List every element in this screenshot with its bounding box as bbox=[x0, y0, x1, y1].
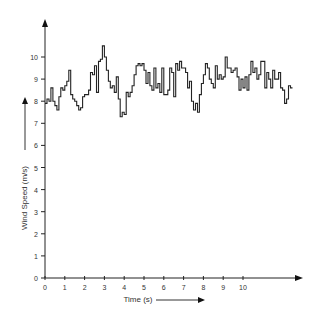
y-tick-label: 6 bbox=[34, 142, 38, 149]
x-tick-label: 7 bbox=[182, 284, 186, 291]
y-tick-label: 7 bbox=[34, 120, 38, 127]
x-tick-label: 10 bbox=[239, 284, 247, 291]
x-tick-label: 8 bbox=[201, 284, 205, 291]
x-tick-label: 0 bbox=[43, 284, 47, 291]
y-tick-label: 1 bbox=[34, 253, 38, 260]
y-tick-label: 3 bbox=[34, 209, 38, 216]
y-tick-label: 0 bbox=[34, 275, 38, 282]
wind-speed-series-line bbox=[45, 46, 293, 117]
x-axis-label: Time (s) bbox=[123, 295, 152, 304]
x-tick-label: 9 bbox=[221, 284, 225, 291]
x-tick-label: 1 bbox=[63, 284, 67, 291]
y-tick-label: 10 bbox=[30, 54, 38, 61]
y-tick-label: 9 bbox=[34, 76, 38, 83]
x-axis-arrow-icon bbox=[295, 275, 303, 281]
y-axis-arrow-icon bbox=[42, 19, 48, 27]
y-tick-label: 5 bbox=[34, 165, 38, 172]
y-axis-label-arrow bbox=[22, 97, 28, 150]
axes bbox=[42, 19, 303, 281]
y-tick-label: 8 bbox=[34, 98, 38, 105]
x-axis-label-arrow bbox=[156, 297, 205, 303]
y-tick-label: 4 bbox=[34, 187, 38, 194]
y-tick-label: 2 bbox=[34, 231, 38, 238]
x-tick-label: 4 bbox=[122, 284, 126, 291]
x-tick-label: 5 bbox=[142, 284, 146, 291]
wind-speed-chart: 012345678910 012345678910 Wind Speed (m/… bbox=[0, 0, 316, 320]
y-axis-ticks: 012345678910 bbox=[30, 54, 45, 282]
x-tick-label: 3 bbox=[102, 284, 106, 291]
y-axis-label: Wind Speed (m/s) bbox=[20, 166, 29, 230]
x-tick-label: 6 bbox=[162, 284, 166, 291]
x-tick-label: 2 bbox=[83, 284, 87, 291]
